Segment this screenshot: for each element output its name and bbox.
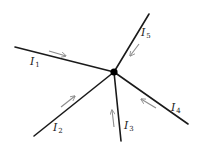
current-label-i4: I4	[170, 101, 181, 115]
current-label-i5: I5	[140, 26, 151, 40]
current-arrow-icon	[49, 51, 66, 56]
current-label-i1: I1	[29, 55, 40, 69]
wire-i4	[114, 72, 188, 124]
wire-i5	[114, 14, 149, 72]
wire-i3	[114, 72, 121, 141]
current-label-i3: I3	[123, 119, 134, 133]
current-label-i2: I2	[52, 121, 63, 135]
current-arrow-icon	[112, 110, 114, 127]
junction-diagram: I1I5I4I3I2	[0, 0, 201, 149]
wire-i2	[34, 72, 114, 136]
junction-node	[110, 68, 117, 75]
current-arrow-icon	[130, 44, 139, 56]
